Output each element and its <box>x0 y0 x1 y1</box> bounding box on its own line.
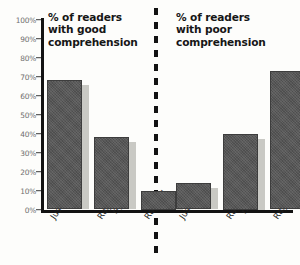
y-axis-tick-label: 0% <box>25 205 36 214</box>
y-axis-tick-mark <box>36 209 41 211</box>
bar <box>270 71 300 210</box>
bar <box>176 183 211 210</box>
y-axis-line <box>41 18 44 211</box>
y-axis-tick-mark <box>36 114 41 116</box>
bar <box>223 134 258 210</box>
y-axis-tick-label: 90% <box>20 34 36 43</box>
y-axis-tick-mark <box>36 95 41 97</box>
bar <box>141 191 176 210</box>
comprehension-bar-chart-figure: 100%90%80%70%60%50%40%30%20%10%0% % of r… <box>0 0 300 265</box>
panel-title-poor-line: with poor <box>176 23 280 35</box>
panel-title-good-line: % of readers <box>48 11 148 23</box>
y-axis-tick-label: 20% <box>20 167 36 176</box>
y-axis-tick-label: 60% <box>20 91 36 100</box>
y-axis-tick-mark <box>36 152 41 154</box>
y-axis-tick-label: 80% <box>20 53 36 62</box>
y-axis-tick-label: 30% <box>20 148 36 157</box>
y-axis-tick-mark <box>36 57 41 59</box>
y-axis-tick-mark <box>36 38 41 40</box>
panel-title-poor-line: comprehension <box>176 36 280 48</box>
y-axis-tick-label: 40% <box>20 129 36 138</box>
y-axis-tick-label: 100% <box>16 15 36 24</box>
y-axis-tick-mark <box>36 171 41 173</box>
panel-title-poor-line: % of readers <box>176 11 280 23</box>
bar <box>94 137 129 209</box>
y-axis-tick-label: 50% <box>20 110 36 119</box>
y-axis-tick-mark <box>36 133 41 135</box>
y-axis-tick-label: 70% <box>20 72 36 81</box>
panel-title-poor: % of readerswith poorcomprehension <box>176 11 280 48</box>
y-axis: 100%90%80%70%60%50%40%30%20%10%0% <box>0 0 36 265</box>
panel-title-good-line: comprehension <box>48 36 148 48</box>
y-axis-tick-mark <box>36 19 41 21</box>
y-axis-tick-mark <box>36 190 41 192</box>
panel-title-good-line: with good <box>48 23 148 35</box>
bar <box>47 80 82 209</box>
y-axis-tick-label: 10% <box>20 186 36 195</box>
y-axis-tick-mark <box>36 76 41 78</box>
panel-title-good: % of readerswith goodcomprehension <box>48 11 148 48</box>
